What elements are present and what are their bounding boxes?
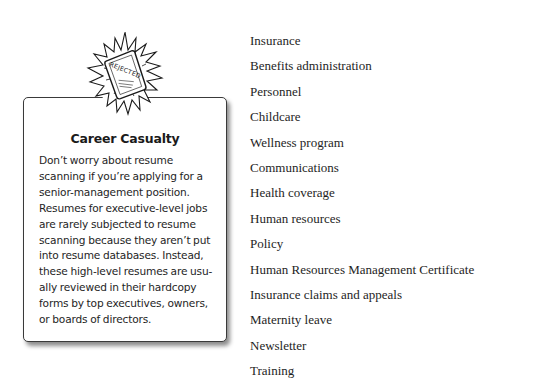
sidebar-body-line: into resume databases. Instead,	[39, 248, 221, 264]
sidebar-body-line: or boards of directors.	[39, 312, 221, 328]
list-item: Policy	[250, 231, 474, 256]
keyword-list: Insurance Benefits administration Person…	[250, 28, 474, 383]
sidebar-body: Don’t worry about resume scanning if you…	[39, 153, 221, 328]
list-item: Newsletter	[250, 333, 474, 358]
sidebar-body-line: ally reviewed in their hardcopy	[39, 280, 221, 296]
sidebar-body-line: Don’t worry about resume	[39, 153, 221, 169]
sidebar-body-line: scanning because they aren’t put	[39, 233, 221, 249]
list-item: Insurance	[250, 28, 474, 53]
list-item: Maternity leave	[250, 307, 474, 332]
list-item: Health coverage	[250, 180, 474, 205]
list-item: Personnel	[250, 79, 474, 104]
sidebar-title: Career Casualty	[24, 131, 226, 146]
sidebar-body-line: senior-management position.	[39, 185, 221, 201]
career-casualty-sidebar: Career Casualty Don’t worry about resume…	[23, 97, 227, 342]
sidebar-body-line: are rarely subjected to resume	[39, 217, 221, 233]
list-item: Training	[250, 358, 474, 383]
list-item: Insurance claims and appeals	[250, 282, 474, 307]
list-item: Communications	[250, 155, 474, 180]
sidebar-body-line: scanning if you’re applying for a	[39, 169, 221, 185]
list-item: Wellness program	[250, 130, 474, 155]
rejected-stamp-icon: REJECTED	[84, 28, 166, 120]
sidebar-body-line: these high-level resumes are usu-	[39, 264, 221, 280]
list-item: Human resources	[250, 206, 474, 231]
list-item: Childcare	[250, 104, 474, 129]
list-item: Benefits administration	[250, 53, 474, 78]
sidebar-body-line: Resumes for executive-level jobs	[39, 201, 221, 217]
list-item: Human Resources Management Certificate	[250, 257, 474, 282]
sidebar-body-line: forms by top executives, owners,	[39, 296, 221, 312]
